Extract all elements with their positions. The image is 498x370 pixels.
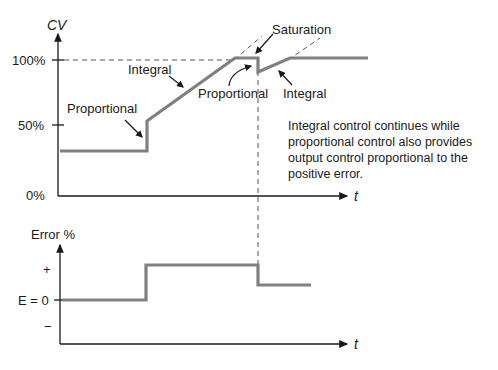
tick-0: 0% [26, 189, 45, 202]
tick-100: 100% [12, 54, 45, 67]
cv-axis-label: CV [47, 18, 66, 32]
control-diagram [0, 0, 498, 370]
label-integral-left: Integral [128, 63, 171, 76]
tick-zero: E = 0 [18, 294, 49, 307]
error-curve [62, 265, 311, 300]
tick-minus: − [44, 320, 52, 333]
label-saturation: Saturation [272, 23, 331, 36]
label-integral-right: Integral [283, 87, 326, 100]
tick-plus: + [43, 263, 51, 276]
error-axis-label: Error % [31, 228, 75, 241]
error-time-axis-label: t [354, 337, 358, 351]
tick-50: 50% [18, 119, 44, 132]
cv-time-axis-label: t [354, 189, 358, 203]
error-axes [54, 245, 347, 344]
label-proportional-left: Proportional [67, 102, 137, 115]
label-proportional-right: Proportional [198, 87, 268, 100]
explanation-note: Integral control continues while proport… [288, 118, 498, 182]
